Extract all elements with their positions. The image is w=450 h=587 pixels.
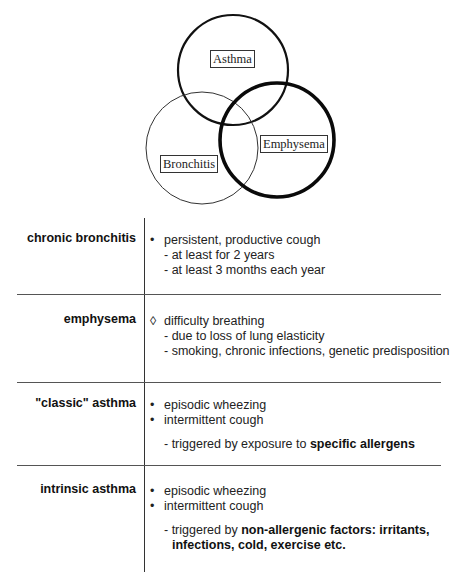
- bullet-icon: •: [150, 413, 162, 428]
- detail-text: - due to loss of lung elasticity: [164, 329, 325, 344]
- trigger-emphasis: infections, cold, exercise etc.: [172, 538, 346, 552]
- column-divider: [144, 218, 145, 572]
- trigger-emphasis: non-allergenic factors: irritants,: [241, 523, 429, 537]
- trigger-prefix: - triggered by exposure to: [164, 437, 310, 451]
- bullet-icon: •: [150, 499, 162, 514]
- symptom-text: intermittent cough: [164, 499, 263, 514]
- symptom-text: episodic wheezing: [164, 398, 266, 413]
- bullet-icon: •: [150, 484, 162, 499]
- row-label-intrinsic-asthma: intrinsic asthma: [40, 482, 136, 497]
- row-label-chronic-bronchitis: chronic bronchitis: [27, 231, 136, 246]
- detail-text: - at least 3 months each year: [164, 263, 325, 278]
- bullet-icon: •: [150, 398, 162, 413]
- symptom-text: intermittent cough: [164, 413, 263, 428]
- symptom-text: difficulty breathing: [164, 314, 265, 329]
- trigger-text: - triggered by non-allergenic factors: i…: [164, 523, 429, 538]
- symptom-text: persistent, productive cough: [164, 233, 320, 248]
- detail-text: - at least for 2 years: [164, 248, 274, 263]
- row-divider: [17, 382, 441, 383]
- trigger-text-continued: infections, cold, exercise etc.: [172, 538, 346, 553]
- detail-text: - smoking, chronic infections, genetic p…: [164, 344, 450, 359]
- trigger-text: - triggered by exposure to specific alle…: [164, 437, 415, 452]
- bullet-icon: •: [150, 233, 162, 248]
- trigger-prefix: - triggered by: [164, 523, 241, 537]
- row-divider: [17, 294, 441, 295]
- row-label-classic-asthma: "classic" asthma: [35, 396, 136, 411]
- symptom-text: episodic wheezing: [164, 484, 266, 499]
- diamond-bullet-icon: ◊: [150, 314, 162, 329]
- trigger-emphasis: specific allergens: [310, 437, 415, 451]
- row-label-emphysema: emphysema: [64, 312, 136, 327]
- row-divider: [17, 465, 441, 466]
